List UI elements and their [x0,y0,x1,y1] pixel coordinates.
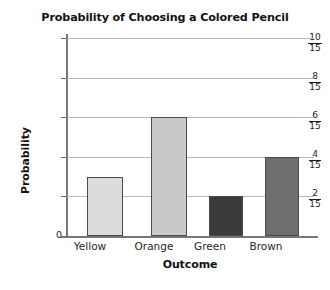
y-axis-title: Probability [6,96,20,196]
bar-yellow[interactable] [87,177,123,236]
x-axis-title: Outcome [66,258,314,271]
bar-brown[interactable] [265,157,299,236]
tick-mark [61,196,67,197]
y-tick-label-0: 0 [36,229,62,240]
tick-mark [61,117,67,118]
bar-green[interactable] [209,196,243,236]
y-axis-title-text: Probability [19,127,32,194]
x-axis-line [60,236,318,238]
x-tick-label-brown: Brown [238,240,294,252]
gridline-10-15 [66,38,314,39]
gridline-6-15 [66,117,314,118]
plot-area [66,38,314,236]
bar-chart: Probability of Choosing a Colored Pencil… [0,0,330,290]
gridline-8-15 [66,78,314,79]
tick-mark [61,38,67,39]
x-tick-label-yellow: Yellow [60,240,120,252]
tick-mark [61,157,67,158]
x-tick-label-orange: Orange [124,240,184,252]
x-tick-label-green: Green [183,240,237,252]
chart-title: Probability of Choosing a Colored Pencil [0,11,330,24]
tick-mark [61,78,67,79]
bar-orange[interactable] [151,117,187,236]
